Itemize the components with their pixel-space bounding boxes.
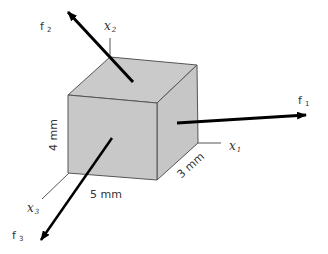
f2-label: f2 [40,20,51,34]
x2-label: x2 [104,19,117,34]
cube-force-diagram: f2 f1 f3 x2 x1 x3 4 mm 5 mm 3 mm [0,0,328,254]
height-dimension-label: 4 mm [47,119,60,151]
f3-label: f3 [12,229,23,243]
width-dimension-label: 5 mm [90,188,122,201]
x3-label: x3 [27,201,40,216]
x1-label: x1 [229,139,241,154]
cube-front-face [68,95,157,180]
f1-label: f1 [298,94,309,108]
x3-axis-line [42,173,69,199]
